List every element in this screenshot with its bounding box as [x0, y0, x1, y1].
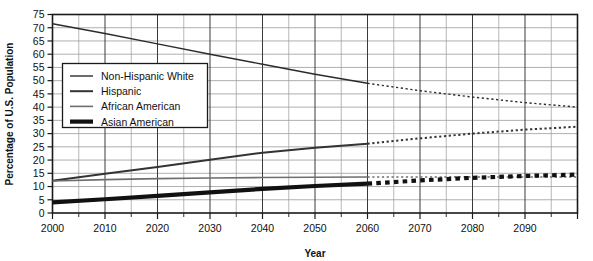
x-tick-label: 2060	[356, 222, 380, 234]
population-projection-chart: 051015202530354045505560657075 200020102…	[0, 0, 593, 261]
legend-label: Non-Hispanic White	[101, 70, 194, 82]
y-tick-label: 55	[33, 61, 45, 73]
y-tick-label: 70	[33, 22, 45, 34]
y-tick-label: 50	[33, 74, 45, 86]
y-tick-label: 10	[33, 180, 45, 192]
x-tick-label: 2040	[251, 222, 275, 234]
legend-label: African American	[101, 100, 181, 112]
chart-background	[0, 0, 593, 261]
x-tick-label: 2080	[461, 222, 485, 234]
y-tick-label: 60	[33, 48, 45, 60]
x-tick-label: 2030	[198, 222, 222, 234]
x-tick-label: 2010	[93, 222, 117, 234]
x-tick-label: 2070	[408, 222, 432, 234]
y-axis-title: Percentage of U.S. Population	[4, 43, 15, 186]
chart-legend: Non-Hispanic WhiteHispanicAfrican Americ…	[63, 64, 208, 128]
y-tick-label: 15	[33, 167, 45, 179]
x-tick-label: 2020	[146, 222, 170, 234]
x-tick-label: 2090	[513, 222, 537, 234]
chart-canvas: 051015202530354045505560657075 200020102…	[0, 0, 593, 261]
y-axis-tick-labels: 051015202530354045505560657075	[33, 8, 45, 219]
y-tick-label: 75	[33, 8, 45, 20]
y-tick-label: 25	[33, 141, 45, 153]
x-tick-label: 2000	[41, 222, 65, 234]
legend-label: Asian American	[101, 116, 174, 128]
y-tick-label: 65	[33, 35, 45, 47]
x-axis-title: Year	[304, 248, 325, 259]
x-tick-label: 2050	[303, 222, 327, 234]
y-tick-label: 20	[33, 154, 45, 166]
y-tick-label: 30	[33, 127, 45, 139]
y-tick-label: 0	[39, 207, 45, 219]
y-tick-label: 40	[33, 101, 45, 113]
y-tick-label: 5	[39, 194, 45, 206]
legend-label: Hispanic	[101, 85, 141, 97]
y-tick-label: 35	[33, 114, 45, 126]
y-tick-label: 45	[33, 88, 45, 100]
